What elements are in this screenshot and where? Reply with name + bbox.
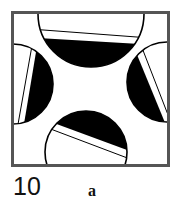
right-segment	[120, 40, 182, 130]
figure-number: 10	[13, 174, 41, 199]
tiling-figure	[0, 0, 182, 170]
bottom-segment	[40, 100, 130, 170]
figure-letter: a	[88, 183, 96, 199]
left-segment	[0, 40, 60, 130]
